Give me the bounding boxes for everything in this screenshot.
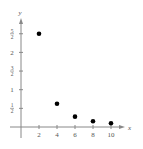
x-tick-label: 10 xyxy=(108,131,116,139)
data-point xyxy=(109,121,114,126)
scatter-chart: xy 24681012132252 xyxy=(0,0,143,149)
x-tick-label: 2 xyxy=(37,131,41,139)
x-tick-label: 8 xyxy=(91,131,95,139)
data-point xyxy=(37,31,42,36)
x-axis-label: x xyxy=(127,124,132,132)
data-point xyxy=(55,101,60,106)
y-tick-label: 2 xyxy=(10,49,14,57)
x-axis-arrow-icon xyxy=(119,125,125,129)
y-axis-arrow-icon xyxy=(19,18,23,24)
y-axis-label: y xyxy=(17,9,22,17)
y-tick-label-denominator: 2 xyxy=(11,34,14,40)
data-point xyxy=(91,119,96,124)
data-point xyxy=(73,114,78,119)
y-tick-label-denominator: 2 xyxy=(11,108,14,114)
x-tick-label: 6 xyxy=(73,131,77,139)
axes: xy xyxy=(10,9,132,138)
x-tick-label: 4 xyxy=(55,131,59,139)
data-points xyxy=(37,31,114,125)
y-tick-label-denominator: 2 xyxy=(11,71,14,77)
y-tick-label: 1 xyxy=(10,86,14,94)
tick-marks: 24681012132252 xyxy=(10,28,115,139)
